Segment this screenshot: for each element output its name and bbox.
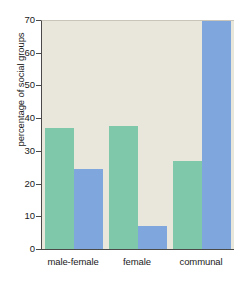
y-tick-label: 60: [13, 48, 35, 58]
x-axis-line: [41, 249, 234, 250]
bar: [202, 21, 231, 250]
bars-layer: [42, 21, 234, 250]
y-tick-label: 30: [13, 146, 35, 156]
bar: [173, 161, 202, 250]
x-tick-label: communal: [169, 256, 233, 267]
y-tick-label: 20: [13, 179, 35, 189]
bar-chart: percentage of social groups 010203040506…: [0, 0, 235, 284]
bar: [138, 226, 167, 250]
y-tick-label: 10: [13, 211, 35, 221]
y-axis-tick-labels: 010203040506070: [13, 0, 35, 284]
x-axis-tick-labels: male-femalefemalecommunal: [41, 256, 233, 276]
bar: [45, 128, 74, 250]
y-tick-label: 40: [13, 113, 35, 123]
y-tick-label: 50: [13, 80, 35, 90]
y-tick-label: 0: [13, 244, 35, 254]
plot-area: [41, 20, 234, 250]
y-tick-label: 70: [13, 15, 35, 25]
x-tick-label: male-female: [41, 256, 105, 267]
bar: [109, 126, 138, 250]
bar: [74, 169, 103, 250]
x-tick-label: female: [105, 256, 169, 267]
